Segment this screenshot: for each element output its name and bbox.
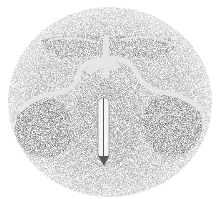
central-cleft bbox=[98, 98, 109, 166]
anatomical-illustration bbox=[0, 0, 220, 199]
